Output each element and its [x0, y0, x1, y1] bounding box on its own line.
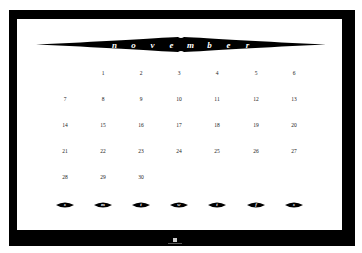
weekday-text: t: [132, 201, 150, 209]
weekday-text: m: [94, 201, 112, 209]
weekday-label: m: [94, 201, 112, 209]
day-cell: 1: [84, 70, 122, 76]
month-banner: n o v e m b e r: [36, 36, 326, 53]
day-cell: 24: [160, 148, 198, 154]
month-letter: n: [105, 40, 124, 50]
day-cell: 18: [198, 122, 236, 128]
day-cell: 25: [198, 148, 236, 154]
day-cell: 14: [46, 122, 84, 128]
month-letter: r: [238, 40, 257, 50]
day-cell: 30: [122, 174, 160, 180]
day-cell: 5: [237, 70, 275, 76]
day-cell: 29: [84, 174, 122, 180]
weekday-text: w: [170, 201, 188, 209]
week-row: 28 29 30: [46, 174, 313, 186]
day-cell: 10: [160, 96, 198, 102]
day-cell: 19: [237, 122, 275, 128]
weekday-label: t: [208, 201, 226, 209]
day-cell: 13: [275, 96, 313, 102]
week-row: 21 22 23 24 25 26 27: [46, 148, 313, 160]
weekday-text: s: [285, 201, 303, 209]
day-cell: 16: [122, 122, 160, 128]
weekday-text: f: [247, 201, 265, 209]
day-cell: 23: [122, 148, 160, 154]
day-cell: 20: [275, 122, 313, 128]
day-cell: 11: [198, 96, 236, 102]
day-cell: 15: [84, 122, 122, 128]
week-row: 7 8 9 10 11 12 13: [46, 96, 313, 108]
weekday-label: w: [170, 201, 188, 209]
weekday-label: t: [132, 201, 150, 209]
day-cell: 27: [275, 148, 313, 154]
month-letter: e: [162, 40, 181, 50]
day-cell: 3: [160, 70, 198, 76]
weekday-label: s: [285, 201, 303, 209]
weekday-labels: s m t w t f s: [46, 201, 313, 211]
day-cell: 8: [84, 96, 122, 102]
day-cell: 26: [237, 148, 275, 154]
month-letter: b: [200, 40, 219, 50]
day-cell: 7: [46, 96, 84, 102]
month-letter: e: [219, 40, 238, 50]
week-row: 1 2 3 4 5 6: [46, 70, 313, 82]
day-cell: 28: [46, 174, 84, 180]
day-cell: 2: [122, 70, 160, 76]
day-cell: 9: [122, 96, 160, 102]
weekday-text: t: [208, 201, 226, 209]
month-letter: o: [124, 40, 143, 50]
footer-line: [168, 243, 182, 244]
day-cell: 17: [160, 122, 198, 128]
day-cell: 4: [198, 70, 236, 76]
day-cell: 21: [46, 148, 84, 154]
month-letter: v: [143, 40, 162, 50]
week-row: 14 15 16 17 18 19 20: [46, 122, 313, 134]
weekday-text: s: [56, 201, 74, 209]
day-cell: 6: [275, 70, 313, 76]
month-title: n o v e m b e r: [36, 36, 326, 53]
footer-mark: [173, 238, 177, 242]
weekday-label: f: [247, 201, 265, 209]
day-cell: 22: [84, 148, 122, 154]
weekday-label: s: [56, 201, 74, 209]
month-letter: m: [181, 40, 200, 50]
day-cell: 12: [237, 96, 275, 102]
